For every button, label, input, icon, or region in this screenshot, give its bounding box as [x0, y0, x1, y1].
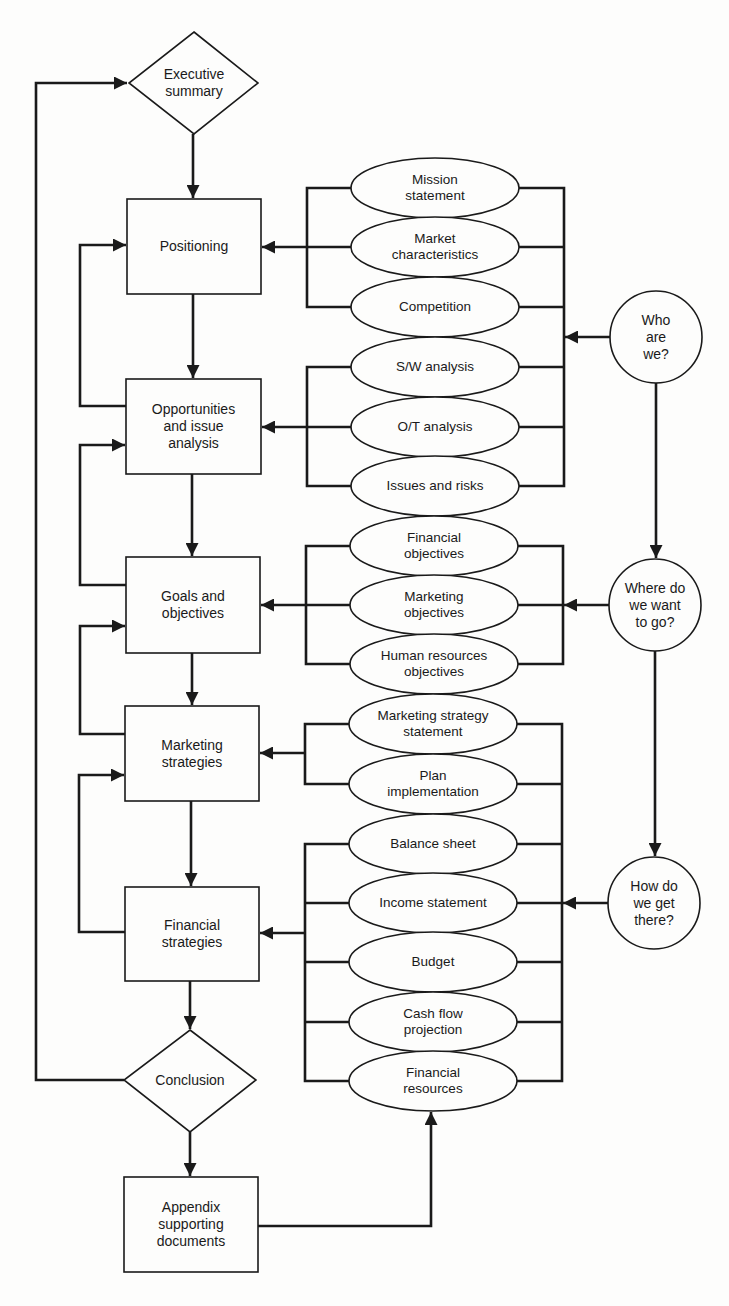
feedback-opportunities-to-positioning	[80, 245, 126, 406]
marketing-plan-flowchart: Executive summary Positioning Opportunit…	[0, 0, 729, 1306]
conclusion-diamond	[124, 1030, 256, 1132]
exec-summary-diamond	[129, 32, 258, 134]
loop-conclusion-to-exec	[36, 83, 127, 1080]
opportunities-box	[126, 379, 261, 474]
appendix-box	[124, 1177, 258, 1272]
feedback-financial-to-marketing	[79, 775, 125, 932]
feedback-marketing-to-goals	[80, 626, 125, 734]
who-are-we-circle	[610, 291, 702, 383]
diagram-lines	[0, 0, 729, 1306]
where-circle	[609, 559, 701, 651]
how-circle	[608, 857, 700, 949]
financial-box	[125, 887, 259, 981]
goals-box	[126, 557, 260, 653]
arrow-appendix-to-financial-resources	[258, 1112, 431, 1226]
positioning-box	[127, 199, 261, 294]
marketing-box	[125, 706, 259, 801]
feedback-goals-to-opportunities	[80, 445, 126, 585]
